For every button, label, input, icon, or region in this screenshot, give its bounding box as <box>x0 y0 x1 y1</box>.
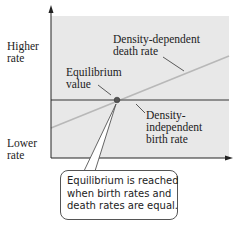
equilibrium-label-line: value <box>66 78 122 90</box>
y-low-label-line: rate <box>7 149 37 161</box>
equilibrium-label: Equilibrium value <box>66 66 122 90</box>
callout-line: Equilibrium is reached <box>67 175 177 188</box>
birth-rate-label-line: independent <box>146 121 202 133</box>
y-high-label: Higher rate <box>7 40 39 64</box>
equilibrium-callout: Equilibrium is reached when birth rates … <box>60 170 178 220</box>
callout-line: death rates are equal. <box>67 200 177 213</box>
death-rate-label: Density-dependent death rate <box>113 33 200 57</box>
birth-rate-label-line: birth rate <box>146 133 202 145</box>
y-axis-arrow-icon <box>49 5 54 13</box>
equilibrium-label-line: Equilibrium <box>66 66 122 78</box>
y-high-label-line: Higher <box>7 40 39 52</box>
population-equilibrium-diagram: Higher rate Lower rate Density-dependent… <box>0 0 246 225</box>
equilibrium-dot <box>114 97 120 103</box>
death-rate-label-line: death rate <box>113 45 200 57</box>
death-rate-label-line: Density-dependent <box>113 33 200 45</box>
y-high-label-line: rate <box>7 52 39 64</box>
birth-rate-label-line: Density- <box>146 109 202 121</box>
y-low-label: Lower rate <box>7 137 37 161</box>
y-low-label-line: Lower <box>7 137 37 149</box>
callout-line: when birth rates and <box>67 188 177 201</box>
birth-rate-label: Density- independent birth rate <box>146 109 202 145</box>
